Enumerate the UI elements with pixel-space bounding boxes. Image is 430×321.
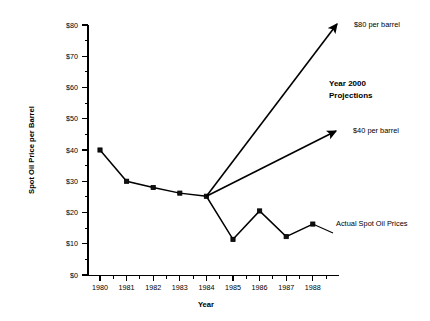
- y-tick-label-80: $80: [66, 21, 78, 30]
- annotation-projection-40: $40 per barrel: [353, 126, 399, 135]
- oil-price-chart: $80 $70 $60 $50 $40 $30 $20 $10 $0 Spot …: [0, 0, 430, 321]
- data-point-1980: [98, 148, 102, 152]
- y-axis-title: Spot Oil Price per Barrel: [27, 106, 36, 194]
- data-point-1986: [258, 209, 262, 213]
- y-tick-label-20: $20: [66, 208, 78, 217]
- x-tick-label-1985: 1985: [225, 283, 241, 292]
- chart-background: [0, 0, 430, 321]
- y-tick-label-70: $70: [66, 52, 78, 61]
- x-tick-label-1982: 1982: [145, 283, 161, 292]
- x-axis-title: Year: [198, 300, 214, 309]
- x-tick-label-1988: 1988: [305, 283, 321, 292]
- x-tick-label-1984: 1984: [198, 283, 214, 292]
- x-tick-label-1986: 1986: [252, 283, 268, 292]
- y-tick-label-60: $60: [66, 83, 78, 92]
- data-point-1981: [125, 179, 129, 183]
- annotation-projections: Projections: [329, 91, 373, 100]
- chart-canvas: $80 $70 $60 $50 $40 $30 $20 $10 $0 Spot …: [0, 0, 430, 321]
- y-tick-label-40: $40: [66, 146, 78, 155]
- x-tick-label-1987: 1987: [278, 283, 294, 292]
- y-tick-label-10: $10: [66, 239, 78, 248]
- y-tick-label-50: $50: [66, 114, 78, 123]
- x-tick-label-1980: 1980: [92, 283, 108, 292]
- x-tick-label-1983: 1983: [172, 283, 188, 292]
- y-tick-label-30: $30: [66, 177, 78, 186]
- data-point-1983: [178, 191, 182, 195]
- data-point-1987: [284, 234, 288, 238]
- data-point-1985: [231, 237, 235, 241]
- data-point-1988: [311, 222, 315, 226]
- data-point-1982: [151, 185, 155, 189]
- y-tick-label-0: $0: [70, 271, 78, 280]
- annotation-year-2000: Year 2000: [329, 79, 366, 88]
- x-tick-label-1981: 1981: [119, 283, 135, 292]
- annotation-projection-80: $80 per barrel: [354, 20, 400, 29]
- annotation-actual-series: Actual Spot Oil Prices: [336, 219, 408, 228]
